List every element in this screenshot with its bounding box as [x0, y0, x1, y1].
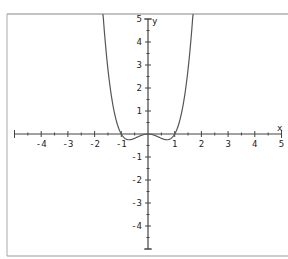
y-tick-label: -4 — [131, 221, 142, 231]
x-tick-label: -2 — [89, 139, 100, 149]
y-tick-label: 1 — [137, 106, 142, 116]
function-plot: -4-3-2-112345-4-3-2-112345 x y — [0, 0, 288, 259]
x-tick-label: 2 — [199, 139, 204, 149]
y-tick-label: 3 — [137, 60, 142, 70]
x-axis-label: x — [277, 123, 283, 133]
y-tick-label: 5 — [137, 14, 142, 24]
tick-labels: -4-3-2-112345-4-3-2-112345 — [36, 14, 284, 231]
x-tick-label: -4 — [36, 139, 47, 149]
x-tick-label: 5 — [279, 139, 284, 149]
x-tick-label: -1 — [116, 139, 127, 149]
x-tick-label: -3 — [62, 139, 73, 149]
y-tick-label: -3 — [131, 198, 142, 208]
y-tick-label: 2 — [137, 83, 142, 93]
y-axis-label: y — [152, 16, 158, 26]
x-tick-label: 4 — [252, 139, 257, 149]
y-tick-label: -1 — [131, 152, 142, 162]
x-tick-label: 3 — [225, 139, 230, 149]
y-tick-label: -2 — [131, 175, 142, 185]
x-tick-label: 1 — [172, 139, 177, 149]
y-tick-label: 4 — [137, 37, 142, 47]
